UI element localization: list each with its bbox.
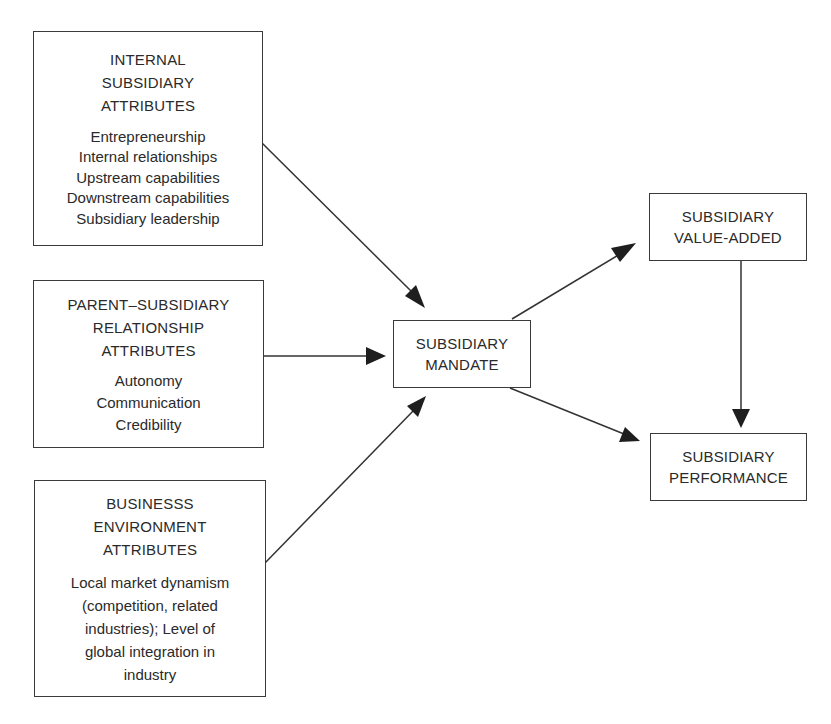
arrow-parent-to-mandate (263, 347, 386, 365)
subsidiary-performance-title: SUBSIDIARY PERFORMANCE (669, 446, 788, 488)
attribute-item: Credibility (96, 414, 200, 436)
subsidiary-mandate-title: SUBSIDIARY MANDATE (416, 333, 509, 375)
attribute-item: Communication (96, 392, 200, 414)
title-line: SUBSIDIARY (101, 71, 195, 94)
business-environment-description: Local market dynamism (competition, rela… (65, 571, 235, 686)
arrow-mandate-to-performance (510, 388, 640, 442)
arrow-internal-to-mandate (262, 143, 425, 308)
attribute-item: Autonomy (96, 370, 200, 392)
diagram-canvas: INTERNAL SUBSIDIARY ATTRIBUTES Entrepren… (0, 0, 831, 724)
description-line: Local market dynamism (71, 571, 229, 594)
title-line: BUSINESSS (93, 492, 206, 515)
title-line: SUBSIDIARY (416, 333, 509, 354)
title-line: RELATIONSHIP (67, 316, 229, 339)
parent-subsidiary-relationship-list: Autonomy Communication Credibility (96, 370, 200, 436)
attribute-item: Downstream capabilities (67, 188, 230, 209)
title-line: MANDATE (416, 354, 509, 375)
attribute-item: Internal relationships (67, 147, 230, 168)
arrow-value-added-to-performance (732, 261, 750, 428)
subsidiary-value-added-title: SUBSIDIARY VALUE-ADDED (674, 206, 782, 248)
description-line: global integration in (71, 640, 229, 663)
title-line: SUBSIDIARY (669, 446, 788, 467)
title-line: INTERNAL (101, 48, 195, 71)
description-line: industries); Level of (71, 617, 229, 640)
title-line: PARENT–SUBSIDIARY (67, 293, 229, 316)
business-environment-attributes-title: BUSINESSS ENVIRONMENT ATTRIBUTES (93, 492, 206, 561)
title-line: PERFORMANCE (669, 467, 788, 488)
parent-subsidiary-relationship-box: PARENT–SUBSIDIARY RELATIONSHIP ATTRIBUTE… (33, 280, 264, 448)
subsidiary-performance-box: SUBSIDIARY PERFORMANCE (650, 433, 807, 501)
title-line: ATTRIBUTES (67, 339, 229, 362)
internal-subsidiary-attributes-box: INTERNAL SUBSIDIARY ATTRIBUTES Entrepren… (33, 31, 263, 246)
subsidiary-value-added-box: SUBSIDIARY VALUE-ADDED (649, 193, 807, 261)
subsidiary-mandate-box: SUBSIDIARY MANDATE (393, 320, 531, 388)
title-line: VALUE-ADDED (674, 227, 782, 248)
description-line: industry (71, 663, 229, 686)
internal-subsidiary-attributes-title: INTERNAL SUBSIDIARY ATTRIBUTES (101, 48, 195, 117)
attribute-item: Entrepreneurship (67, 127, 230, 148)
attribute-item: Subsidiary leadership (67, 209, 230, 230)
parent-subsidiary-relationship-title: PARENT–SUBSIDIARY RELATIONSHIP ATTRIBUTE… (67, 293, 229, 362)
arrow-business-to-mandate (265, 396, 426, 563)
title-line: ENVIRONMENT (93, 515, 206, 538)
title-line: ATTRIBUTES (93, 538, 206, 561)
title-line: ATTRIBUTES (101, 94, 195, 117)
attribute-item: Upstream capabilities (67, 168, 230, 189)
title-line: SUBSIDIARY (674, 206, 782, 227)
business-environment-attributes-box: BUSINESSS ENVIRONMENT ATTRIBUTES Local m… (34, 480, 266, 697)
internal-subsidiary-attributes-list: Entrepreneurship Internal relationships … (67, 127, 230, 230)
arrow-mandate-to-value-added (512, 243, 636, 319)
description-line: (competition, related (71, 594, 229, 617)
